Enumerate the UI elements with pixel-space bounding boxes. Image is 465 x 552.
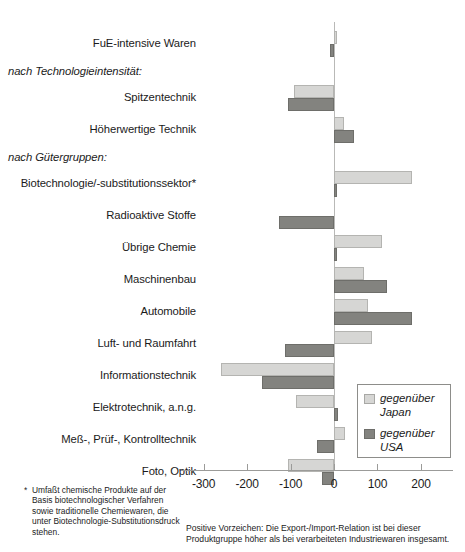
group-heading: nach Gütergruppen: xyxy=(8,151,107,164)
bar-group xyxy=(181,267,443,299)
x-axis-tick xyxy=(247,464,248,471)
legend-label-japan: gegenüberJapan xyxy=(380,392,434,419)
bar-japan xyxy=(334,117,344,130)
bar-usa xyxy=(262,376,334,389)
group-heading: nach Technologieintensität: xyxy=(8,65,142,78)
bar-group xyxy=(181,171,443,203)
bar-group xyxy=(181,299,443,331)
footnote-marker: * xyxy=(24,485,27,495)
x-axis-tick-label: -200 xyxy=(235,477,258,491)
bar-group xyxy=(181,117,443,149)
x-axis-tick-label: 100 xyxy=(368,477,387,491)
x-axis-tick xyxy=(334,464,335,471)
x-axis-tick xyxy=(421,464,422,471)
bar-japan xyxy=(334,31,337,44)
bar-japan xyxy=(334,267,364,280)
bar-group xyxy=(181,235,443,267)
bar-usa xyxy=(334,280,387,293)
bar-usa xyxy=(330,44,334,57)
bar-group xyxy=(181,459,443,491)
bar-group xyxy=(181,85,443,117)
bar-usa xyxy=(334,184,337,197)
chart-page: FuE-intensive Warennach Technologieinten… xyxy=(0,0,465,552)
bar-usa xyxy=(317,440,334,453)
bar-japan xyxy=(296,395,334,408)
x-axis-tick xyxy=(291,464,292,471)
legend-label-usa-line2: USA xyxy=(380,441,403,453)
x-axis-line-extension xyxy=(443,470,453,471)
category-label: Meß-, Prüf-, Kontrolltechnik xyxy=(61,433,196,446)
legend-label-japan-line2: Japan xyxy=(380,406,411,418)
bar-usa xyxy=(334,408,338,421)
bar-japan xyxy=(334,331,372,344)
footnote: * Umfaßt chemische Produkte auf der Basi… xyxy=(32,485,182,537)
bar-usa xyxy=(334,248,337,261)
x-axis-line xyxy=(181,470,443,471)
legend-label-usa-line1: gegenüber xyxy=(380,427,434,439)
x-axis-tick-label: 200 xyxy=(411,477,430,491)
bar-group xyxy=(181,203,443,235)
caption-line-1: Positive Vorzeichen: Die Export-/Import-… xyxy=(186,523,421,533)
x-axis-tick xyxy=(377,464,378,471)
caption-line-2: Produktgruppe höher als bei verarbeitete… xyxy=(186,534,449,544)
bar-usa xyxy=(334,130,354,143)
bar-japan xyxy=(334,299,368,312)
x-axis-tick xyxy=(204,464,205,471)
bar-group xyxy=(181,31,443,63)
legend-swatch-japan-icon xyxy=(364,394,375,404)
category-label-column: FuE-intensive Warennach Technologieinten… xyxy=(0,0,196,470)
legend-swatch-usa-icon xyxy=(364,429,375,439)
footnote-text: Umfaßt chemische Produkte auf der Basis … xyxy=(32,485,180,537)
chart-legend: gegenüberJapan gegenüberUSA xyxy=(357,384,451,458)
bar-japan xyxy=(334,171,412,184)
bar-japan xyxy=(334,427,345,440)
x-axis-tick-label: 0 xyxy=(331,477,337,491)
bar-usa xyxy=(279,216,334,229)
legend-label-usa: gegenüberUSA xyxy=(380,427,434,454)
bar-usa xyxy=(285,344,334,357)
x-axis-tick-label: -300 xyxy=(192,477,215,491)
x-axis-tick-label: -100 xyxy=(279,477,302,491)
bar-usa xyxy=(334,312,412,325)
bar-usa xyxy=(288,98,334,111)
category-label: Biotechnologie/-substitutionssektor* xyxy=(21,177,196,190)
bar-group xyxy=(181,331,443,363)
bar-japan xyxy=(294,85,334,98)
chart-caption: Positive Vorzeichen: Die Export-/Import-… xyxy=(186,523,464,545)
legend-label-japan-line1: gegenüber xyxy=(380,392,434,404)
bar-japan xyxy=(221,363,334,376)
bar-japan xyxy=(334,235,382,248)
